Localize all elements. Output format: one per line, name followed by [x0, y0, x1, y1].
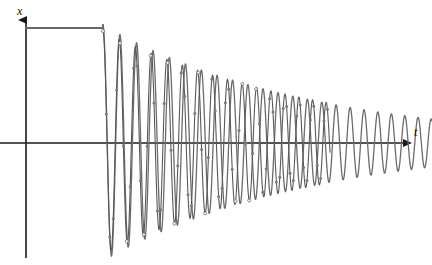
- data-point-marker: [265, 167, 268, 170]
- data-point-marker: [268, 97, 271, 100]
- data-point-marker: [224, 101, 227, 104]
- data-point-marker: [258, 122, 261, 125]
- data-point-marker: [105, 112, 108, 115]
- data-point-marker: [306, 179, 309, 182]
- x-axis-label: t: [414, 126, 417, 138]
- data-point-marker: [166, 61, 169, 64]
- data-point-marker: [214, 109, 217, 112]
- data-point-marker: [255, 88, 258, 91]
- data-point-marker: [119, 42, 122, 45]
- data-point-marker: [183, 95, 186, 98]
- axes-group: [0, 20, 404, 258]
- curve-layer: [26, 25, 432, 256]
- data-point-marker: [156, 210, 159, 213]
- data-point-marker: [159, 208, 162, 211]
- data-point-marker: [132, 67, 135, 70]
- data-point-marker: [210, 77, 213, 80]
- data-point-marker: [272, 111, 275, 114]
- data-point-marker: [102, 30, 105, 33]
- data-point-marker: [295, 114, 298, 117]
- data-point-marker: [316, 164, 319, 167]
- data-point-marker: [115, 89, 118, 92]
- data-point-marker: [299, 104, 302, 107]
- data-point-marker: [241, 82, 244, 85]
- data-point-marker: [125, 240, 128, 243]
- data-point-marker: [176, 164, 179, 167]
- data-point-marker: [302, 166, 305, 169]
- data-point-marker: [217, 195, 220, 198]
- data-point-marker: [173, 222, 176, 225]
- data-point-marker: [285, 105, 288, 108]
- data-point-marker: [292, 179, 295, 182]
- data-point-marker: [122, 144, 125, 147]
- data-point-marker: [326, 108, 329, 111]
- data-point-marker: [142, 233, 145, 236]
- data-point-marker: [204, 212, 207, 215]
- data-point-marker: [238, 129, 241, 132]
- data-point-marker: [112, 217, 115, 220]
- data-point-marker: [323, 119, 326, 122]
- data-point-marker: [163, 102, 166, 105]
- data-point-marker: [289, 172, 292, 175]
- data-point-marker: [319, 177, 322, 180]
- data-point-marker: [108, 235, 111, 238]
- data-point-marker: [197, 71, 200, 74]
- data-point-marker: [200, 148, 203, 151]
- damped-oscillation-chart: x t: [0, 0, 432, 265]
- y-axis-label: x: [17, 5, 22, 17]
- data-point-marker: [278, 176, 281, 179]
- plot-canvas: [0, 0, 432, 265]
- data-point-marker: [146, 145, 149, 148]
- data-point-marker: [153, 101, 156, 104]
- data-point-marker: [248, 199, 251, 202]
- data-point-marker: [227, 88, 230, 91]
- data-point-marker: [136, 65, 139, 68]
- data-point-marker: [231, 168, 234, 171]
- data-point-marker: [244, 142, 247, 145]
- data-point-marker: [193, 112, 196, 115]
- data-point-marker: [139, 179, 142, 182]
- data-point-marker: [251, 152, 254, 155]
- data-point-marker: [129, 185, 132, 188]
- data-point-marker: [207, 156, 210, 159]
- data-point-marker: [187, 193, 190, 196]
- data-point-marker: [261, 191, 264, 194]
- data-point-marker: [190, 204, 193, 207]
- marker-layer: [102, 30, 329, 243]
- data-point-marker: [170, 149, 173, 152]
- data-point-marker: [312, 105, 315, 108]
- data-point-marker: [282, 107, 285, 110]
- data-point-marker: [149, 54, 152, 57]
- data-point-marker: [275, 181, 278, 184]
- data-point-marker: [180, 71, 183, 74]
- series-path: [103, 31, 330, 251]
- data-point-marker: [221, 187, 224, 190]
- data-point-marker: [234, 200, 237, 203]
- data-point-marker: [309, 119, 312, 122]
